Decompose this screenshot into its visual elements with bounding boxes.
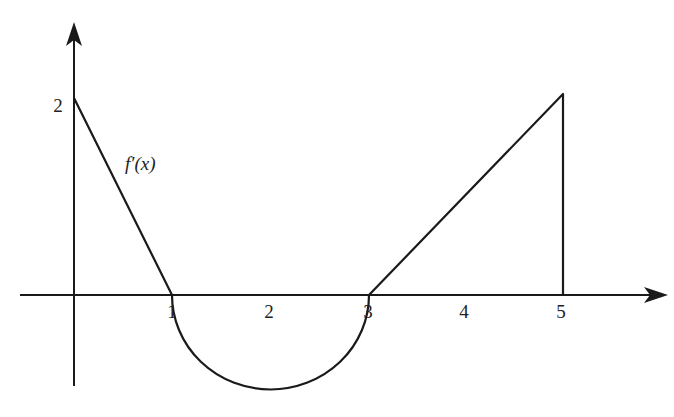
x-tick-label-4: 4 xyxy=(459,301,469,322)
segment-increasing-line-and-vertical xyxy=(369,94,563,295)
chart-canvas: 2 f′(x) 1 2 3 4 5 xyxy=(0,0,674,417)
x-tick-label-1: 1 xyxy=(167,301,177,322)
x-tick-label-3: 3 xyxy=(363,301,373,322)
x-tick-label-2: 2 xyxy=(264,301,274,322)
graph-of-f-prime: 2 f′(x) 1 2 3 4 5 xyxy=(0,0,674,417)
segment-decreasing-line xyxy=(74,98,172,295)
y-tick-label-2: 2 xyxy=(53,95,63,116)
x-tick-label-5: 5 xyxy=(556,301,566,322)
function-label: f′(x) xyxy=(125,153,156,175)
